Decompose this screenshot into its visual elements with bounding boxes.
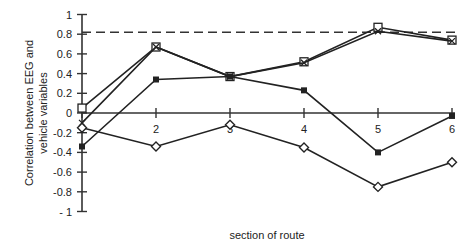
axes: 10.80.60.40.20-0.2-0.4-0.6-0.8- 1123456: [53, 9, 455, 218]
y-tick-label: 1: [66, 9, 72, 21]
filled-square-marker: [449, 113, 455, 119]
series-group: [78, 23, 457, 191]
y-tick-label: -0.2: [53, 127, 72, 139]
y-tick-label: 0: [66, 107, 72, 119]
y-tick-label: 0.6: [57, 48, 72, 60]
line-chart: 10.80.60.40.20-0.2-0.4-0.6-0.8- 1123456 …: [0, 0, 476, 246]
chart-canvas: 10.80.60.40.20-0.2-0.4-0.6-0.8- 1123456 …: [0, 0, 476, 246]
y-tick-label: - 1: [59, 206, 72, 218]
y-tick-label: 0.2: [57, 87, 72, 99]
open-square-marker: [374, 23, 382, 31]
series-line: [82, 125, 452, 187]
x-axis-label: section of route: [229, 229, 304, 241]
x-tick-label: 6: [449, 123, 455, 135]
open-diamond-marker: [448, 158, 457, 167]
filled-square-marker: [227, 74, 233, 80]
filled-square-marker: [153, 77, 159, 83]
x-tick-label: 2: [153, 123, 159, 135]
y-tick-label: -0.6: [53, 166, 72, 178]
open-diamond-marker: [152, 142, 161, 151]
open-diamond-marker: [300, 143, 309, 152]
open-diamond-marker: [374, 182, 383, 191]
series-line: [82, 31, 452, 123]
filled-square-marker: [375, 149, 381, 155]
x-tick-label: 5: [375, 123, 381, 135]
y-axis-label-line-2: vehicle variables: [37, 72, 49, 154]
y-tick-label: 0.8: [57, 28, 72, 40]
series-cross: [79, 28, 455, 126]
y-tick-label: -0.8: [53, 186, 72, 198]
y-tick-label: -0.4: [53, 146, 72, 158]
y-tick-label: 0.4: [57, 68, 72, 80]
series-filled-square: [79, 74, 455, 156]
y-axis-label-line-1: Correlation between EEG and: [23, 40, 35, 186]
filled-square-marker: [79, 143, 85, 149]
series-open-diamond: [78, 120, 457, 191]
x-tick-label: 4: [301, 123, 307, 135]
filled-square-marker: [301, 87, 307, 93]
open-square-marker: [78, 104, 86, 112]
